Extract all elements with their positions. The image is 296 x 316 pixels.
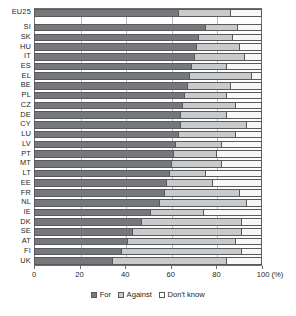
y-axis-label-mt: MT (0, 159, 31, 167)
x-tick-80 (216, 266, 217, 269)
bar-segment-for (34, 24, 205, 32)
bar-segment-for (34, 257, 112, 265)
bar-segment-for (34, 82, 187, 90)
bar-segment-against (121, 248, 242, 256)
bar-segment-for (34, 218, 141, 226)
bar-segment-for (34, 72, 189, 80)
y-axis-label-es: ES (0, 62, 31, 70)
x-tick-20 (80, 266, 81, 269)
bar-row (34, 248, 262, 256)
x-tick-label-40: 40 (121, 270, 129, 279)
bar-segment-against (173, 150, 216, 158)
bar-segment-dk (226, 257, 262, 265)
y-axis-label-uk: UK (0, 257, 31, 265)
bar-segment-against (191, 63, 225, 71)
bar-segment-for (34, 121, 180, 129)
legend-item-dont-know: Don't know (159, 290, 205, 299)
legend-label-for: For (100, 290, 111, 299)
bar-segment-against (184, 92, 225, 100)
bar-row (34, 228, 262, 236)
x-axis: 020406080100 (%) (34, 266, 262, 288)
bar-row (34, 53, 262, 61)
y-axis-label-pl: PL (0, 91, 31, 99)
bar-segment-dk (216, 150, 262, 158)
bar-row (34, 141, 262, 149)
stacked-bars (34, 8, 262, 266)
bar-segment-against (180, 111, 226, 119)
bar-segment-against (194, 53, 244, 61)
y-axis-label-cz: CZ (0, 101, 31, 109)
bar-segment-for (34, 150, 173, 158)
x-tick-label-60: 60 (167, 270, 175, 279)
bar-segment-against (198, 34, 232, 42)
bar-segment-against (166, 179, 212, 187)
bar-row (34, 43, 262, 51)
bar-segment-against (159, 199, 246, 207)
y-axis-label-cy: CY (0, 120, 31, 128)
bar-segment-against (175, 141, 221, 149)
bar-segment-dk (241, 248, 262, 256)
y-axis-label-pt: PT (0, 150, 31, 158)
bar-row (34, 9, 262, 17)
bar-segment-for (34, 63, 191, 71)
bar-row (34, 150, 262, 158)
bar-segment-dk (246, 121, 262, 129)
legend-item-for: For (91, 290, 111, 299)
x-tick-label-0: 0 (32, 270, 36, 279)
bar-row (34, 160, 262, 168)
bar-row (34, 131, 262, 139)
bar-row (34, 238, 262, 246)
bar-segment-dk (241, 228, 262, 236)
bar-segment-for (34, 209, 150, 217)
bar-segment-for (34, 9, 178, 17)
bar-segment-dk (237, 24, 262, 32)
bar-row (34, 82, 262, 90)
bar-segment-dk (226, 111, 262, 119)
y-axis-label-lu: LU (0, 130, 31, 138)
bar-segment-for (34, 141, 175, 149)
bar-segment-for (34, 228, 132, 236)
y-axis-labels: EU25SISKHUITESELBEPLCZDECYLULVPTMTLTEEFR… (0, 8, 31, 266)
y-axis-label-eu25: EU25 (0, 8, 31, 16)
bar-segment-dk (203, 209, 262, 217)
bar-segment-against (189, 72, 251, 80)
y-axis-label-it: IT (0, 52, 31, 60)
bar-row (34, 102, 262, 110)
bar-segment-for (34, 170, 169, 178)
bar-segment-for (34, 102, 182, 110)
bar-segment-dk (246, 199, 262, 207)
bar-segment-against (127, 238, 234, 246)
y-axis-label-ie: IE (0, 208, 31, 216)
bar-segment-dk (232, 34, 262, 42)
bar-row (34, 170, 262, 178)
bar-segment-against (141, 218, 241, 226)
bar-segment-for (34, 189, 164, 197)
bar-segment-against (178, 131, 235, 139)
bar-segment-dk (235, 102, 262, 110)
y-axis-label-lt: LT (0, 169, 31, 177)
bar-row (34, 199, 262, 207)
bar-segment-dk (251, 72, 262, 80)
bar-segment-dk (244, 53, 262, 61)
chart-legend: For Against Don't know (0, 290, 296, 299)
y-axis-label-fi: FI (0, 247, 31, 255)
x-tick-0 (34, 266, 35, 269)
bar-segment-dk (239, 43, 262, 51)
bar-row (34, 189, 262, 197)
bar-segment-against (164, 189, 239, 197)
y-axis-label-at: AT (0, 237, 31, 245)
bar-segment-dk (226, 92, 262, 100)
bar-segment-against (205, 24, 237, 32)
bar-row (34, 63, 262, 71)
y-axis-label-lv: LV (0, 140, 31, 148)
bar-row (34, 179, 262, 187)
bar-segment-for (34, 238, 127, 246)
legend-label-dont-know: Don't know (167, 290, 204, 299)
bar-row (34, 92, 262, 100)
x-tick-label-100: 100 (%) (257, 270, 284, 279)
bar-segment-against (182, 102, 234, 110)
bar-segment-against (112, 257, 226, 265)
legend-swatch-for-icon (91, 292, 97, 298)
bar-row (34, 209, 262, 217)
bar-segment-against (187, 82, 230, 90)
